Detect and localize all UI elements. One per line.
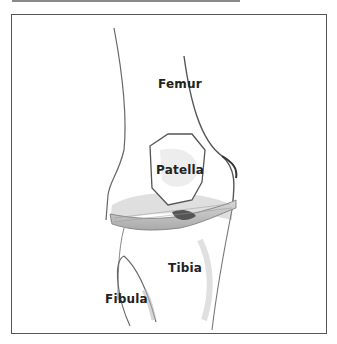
label-femur: Femur <box>158 77 202 91</box>
tibia-outline-right <box>212 210 232 330</box>
label-tibia: Tibia <box>168 261 202 275</box>
label-patella: Patella <box>156 163 204 177</box>
label-fibula: Fibula <box>105 292 148 306</box>
femur-outline-left <box>106 28 125 220</box>
